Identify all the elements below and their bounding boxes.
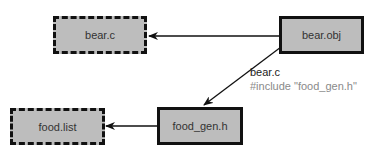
edge-sublabel: #include "food_gen.h" (250, 80, 357, 93)
edge-label: bear.c (250, 66, 280, 79)
node-label: bear.obj (302, 29, 341, 41)
node-food-gen-h: food_gen.h (157, 107, 243, 145)
node-food-list: food.list (10, 108, 105, 145)
node-label: food_gen.h (172, 120, 227, 132)
node-bear-obj: bear.obj (279, 16, 364, 54)
dependency-diagram: bear.c bear.obj food.list food_gen.h bea… (0, 0, 372, 155)
node-label: food.list (39, 121, 77, 133)
node-label: bear.c (85, 29, 115, 41)
node-bear-c: bear.c (53, 16, 147, 54)
